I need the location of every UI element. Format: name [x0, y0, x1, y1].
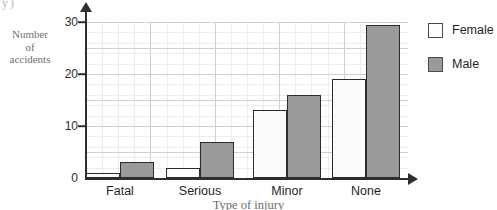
x-axis-title: Type of injury: [0, 198, 497, 210]
x-tick-label-none: None: [351, 184, 381, 198]
bar-minor-male: [287, 95, 321, 178]
legend: Female Male: [428, 22, 494, 90]
bar-serious-female: [166, 168, 200, 178]
bar-minor-female: [253, 110, 287, 178]
x-tick-label-minor: Minor: [271, 184, 302, 198]
legend-swatch-male-icon: [428, 57, 443, 72]
bar-none-male: [366, 25, 400, 178]
bar-none-female: [332, 79, 366, 178]
x-tick-label-serious: Serious: [179, 184, 221, 198]
bar-serious-male: [200, 142, 234, 178]
legend-item-male: Male: [428, 56, 494, 72]
bar-series-container: [0, 0, 497, 210]
legend-item-female: Female: [428, 22, 494, 38]
chart-figure: y) Number of accidents 0 10 20 30 Fatal …: [0, 0, 497, 210]
bar-fatal-female: [86, 173, 120, 178]
legend-swatch-female-icon: [428, 23, 443, 38]
legend-label-female: Female: [452, 23, 494, 37]
bar-fatal-male: [120, 162, 154, 178]
legend-label-male: Male: [452, 57, 479, 71]
x-tick-label-fatal: Fatal: [106, 184, 134, 198]
